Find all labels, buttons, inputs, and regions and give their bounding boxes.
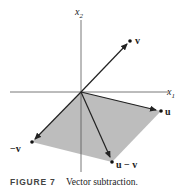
label-neg-v: −v (10, 143, 21, 154)
caption-text: Vector subtraction. (66, 177, 138, 187)
vector-v (81, 44, 127, 92)
point-v (128, 39, 132, 43)
x1-axis-label: x1 (166, 86, 175, 100)
point-u (159, 109, 163, 113)
point-neg-v (30, 140, 34, 144)
label-v: v (135, 35, 140, 46)
label-u: u (165, 106, 171, 117)
point-u-minus-v (110, 160, 114, 164)
vector-subtraction-diagram: x2 x1 v u −v u − v FIGURE 7 Vector subtr… (0, 0, 177, 193)
label-u-minus-v: u − v (116, 159, 137, 170)
x2-axis-label: x2 (74, 6, 83, 20)
caption-figure-number: FIGURE 7 (10, 177, 56, 187)
